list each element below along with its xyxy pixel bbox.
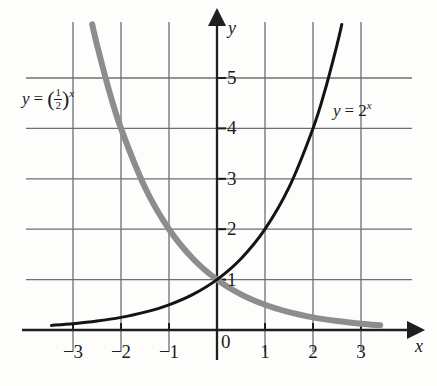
plot-canvas — [0, 0, 437, 386]
label-half-fraction: 12 — [54, 87, 62, 111]
y-tick-label: 5 — [227, 68, 247, 87]
x-tick-label: −2 — [106, 342, 136, 361]
y-tick-label: 4 — [227, 118, 247, 137]
y-tick-label: 2 — [227, 219, 247, 238]
exponential-functions-graph: y x −3−2−1012312345 y=(12)x y=2x — [0, 0, 437, 386]
label-half-lhs: y — [22, 89, 30, 108]
label-half-open-paren: ( — [47, 86, 54, 111]
label-half-close-paren: ) — [62, 86, 69, 111]
label-two-lhs: y — [333, 101, 341, 120]
axis-lines — [22, 24, 409, 360]
curve-label-half-power: y=(12)x — [22, 88, 74, 112]
label-half-numerator: 1 — [54, 87, 62, 100]
x-axis-label: x — [415, 336, 423, 357]
x-tick-label: 0 — [221, 332, 251, 351]
x-tick-label: 2 — [298, 342, 328, 361]
y-tick-label: 3 — [227, 169, 247, 188]
grid-lines — [26, 22, 412, 352]
label-two-base: 2 — [358, 101, 367, 120]
label-two-equals: = — [341, 101, 359, 120]
label-half-equals: = — [30, 89, 48, 108]
curve-label-two-power: y=2x — [333, 100, 372, 119]
y-tick-label: 1 — [227, 270, 247, 289]
x-tick-label: 3 — [346, 342, 376, 361]
label-half-exponent: x — [69, 87, 74, 99]
label-half-denominator: 2 — [54, 100, 62, 112]
y-axis-label: y — [228, 18, 236, 39]
label-two-exponent: x — [367, 99, 372, 111]
x-tick-label: 1 — [250, 342, 280, 361]
x-tick-label: −3 — [58, 342, 88, 361]
x-tick-label: −1 — [154, 342, 184, 361]
